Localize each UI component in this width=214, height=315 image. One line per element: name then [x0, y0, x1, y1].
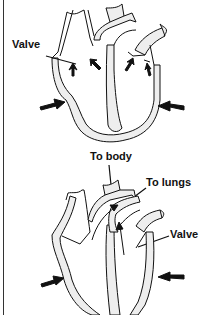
heart-bottom-pulmonary-vein	[136, 210, 164, 232]
heart-top: Valve	[12, 4, 184, 142]
label-to-body: To body	[90, 150, 133, 162]
heart-bottom-pulmonary-artery	[109, 196, 140, 232]
arrow-up-icon	[69, 63, 77, 76]
heart-top-aorta	[94, 4, 136, 40]
heart-bottom: To body To lungs Valve	[41, 150, 198, 315]
heart-top-valve-leader	[46, 56, 76, 64]
heart-diagram-svg: Valve To body To lungs Valve	[0, 0, 214, 315]
to-body-leader	[109, 165, 111, 185]
flow-arrow-pulmonary-shaft	[120, 226, 124, 255]
arrow-right-compression-icon	[41, 276, 64, 287]
arrow-left-compression-icon	[158, 272, 184, 281]
heart-top-valve-label: Valve	[12, 38, 40, 50]
label-to-lungs: To lungs	[146, 176, 191, 188]
heart-bottom-septum	[106, 225, 120, 315]
heart-top-vena-cava	[52, 10, 94, 58]
heart-top-septum	[106, 45, 122, 132]
arrow-diagonal-icon	[90, 59, 101, 70]
label-bottom-valve: Valve	[170, 228, 198, 240]
to-lungs-leader	[134, 188, 146, 197]
arrow-left-compression-icon	[158, 101, 184, 111]
arrow-diagonal-icon	[125, 58, 134, 71]
arrow-right-compression-icon	[40, 99, 65, 110]
heart-diagram-figure: Valve To body To lungs Valve	[0, 0, 214, 315]
arrow-up-icon	[145, 63, 151, 76]
heart-bottom-outer-wall-right	[130, 232, 154, 315]
